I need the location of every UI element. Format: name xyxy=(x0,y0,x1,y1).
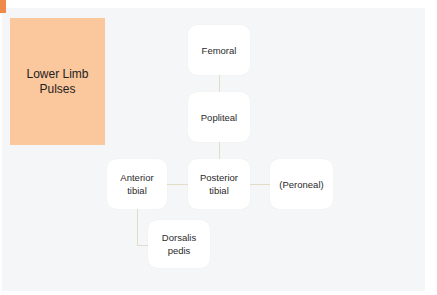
connector-to-dorsalis-pedis xyxy=(137,245,148,246)
node-posterior-tibial-line-1: Posterior xyxy=(200,171,238,184)
node-posterior-tibial-line-2: tibial xyxy=(200,184,238,197)
node-peroneal: (Peroneal) xyxy=(270,159,333,209)
node-dorsalis-pedis-line-1: Dorsalis xyxy=(162,231,196,244)
diagram-title-block: Lower Limb Pulses xyxy=(10,18,105,145)
title-line-1: Lower Limb xyxy=(26,67,88,82)
accent-bar xyxy=(0,0,6,13)
node-femoral-label: Femoral xyxy=(202,44,237,57)
connector-anterior-tibial-down xyxy=(137,209,138,245)
node-dorsalis-pedis-line-2: pedis xyxy=(162,244,196,257)
node-femoral: Femoral xyxy=(188,25,250,75)
connector-posterior-tibial-peroneal xyxy=(250,184,270,185)
node-anterior-tibial-line-1: Anterior xyxy=(120,171,153,184)
title-line-2: Pulses xyxy=(26,82,88,97)
node-popliteal-label: Popliteal xyxy=(201,111,237,124)
connector-popliteal-posterior-tibial xyxy=(219,142,220,159)
node-posterior-tibial: Posterior tibial xyxy=(188,159,250,209)
node-anterior-tibial-line-2: tibial xyxy=(120,184,153,197)
node-dorsalis-pedis: Dorsalis pedis xyxy=(148,220,210,268)
node-popliteal: Popliteal xyxy=(188,92,250,142)
connector-anterior-posterior-tibial xyxy=(167,184,188,185)
node-peroneal-label: (Peroneal) xyxy=(279,178,323,191)
node-anterior-tibial: Anterior tibial xyxy=(107,159,167,209)
connector-femoral-popliteal xyxy=(219,75,220,92)
